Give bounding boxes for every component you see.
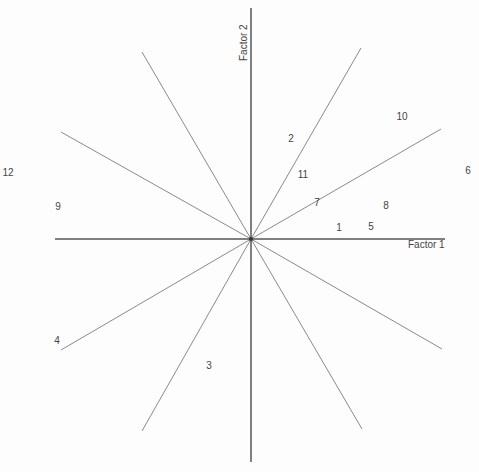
point-label-2: 2 [288, 134, 294, 144]
point-label-12: 12 [2, 168, 13, 178]
origin-dot [249, 237, 253, 241]
factor-1-label: Factor 1 [408, 240, 445, 250]
ray-30-lower-right [251, 239, 442, 349]
point-label-3: 3 [206, 361, 212, 371]
ray-30-upper-left [61, 132, 251, 239]
point-label-8: 8 [383, 201, 389, 211]
ray-60-upper-right [251, 48, 361, 239]
point-label-11: 11 [298, 170, 308, 180]
point-label-1: 1 [336, 223, 342, 233]
ray-30-lower-left [61, 239, 251, 350]
factor-axes-svg [0, 0, 479, 472]
factor-2-label: Factor 2 [239, 24, 249, 61]
point-label-7: 7 [314, 198, 320, 208]
ray-60-lower-right [251, 239, 362, 429]
point-label-4: 4 [54, 336, 60, 346]
point-label-9: 9 [55, 202, 61, 212]
point-label-6: 6 [465, 166, 471, 176]
ray-60-upper-left [142, 52, 251, 239]
factor-plot: Factor 2 Factor 1 1 2 3 4 5 6 7 8 9 10 1… [0, 0, 479, 472]
ray-30-upper-right [251, 129, 441, 239]
ray-60-lower-left [142, 239, 251, 431]
point-label-5: 5 [368, 222, 374, 232]
point-label-10: 10 [396, 112, 407, 122]
